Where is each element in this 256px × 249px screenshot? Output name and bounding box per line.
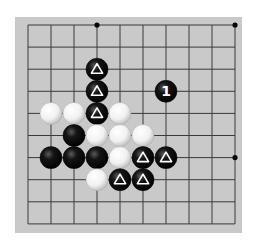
white-stone xyxy=(109,102,131,124)
black-stone xyxy=(86,102,108,124)
white-stone xyxy=(109,125,131,147)
hoshi-point xyxy=(232,22,237,27)
hoshi-point xyxy=(232,155,237,160)
hoshi-point xyxy=(94,22,99,27)
go-board: 1 xyxy=(0,0,256,249)
black-stone xyxy=(40,147,62,169)
black-stone xyxy=(63,147,85,169)
white-stone xyxy=(40,102,62,124)
black-stone xyxy=(86,58,108,80)
black-stone xyxy=(132,169,154,191)
white-stone xyxy=(132,125,154,147)
black-stone xyxy=(86,147,108,169)
black-stone xyxy=(86,80,108,102)
board-surface xyxy=(15,17,242,233)
black-stone xyxy=(109,169,131,191)
white-stone xyxy=(109,147,131,169)
white-stone xyxy=(86,169,108,191)
black-stone: 1 xyxy=(155,80,177,102)
black-stone xyxy=(63,125,85,147)
white-stone xyxy=(63,102,85,124)
white-stone xyxy=(86,125,108,147)
move-number-label: 1 xyxy=(161,83,171,99)
black-stone xyxy=(132,147,154,169)
black-stone xyxy=(155,147,177,169)
